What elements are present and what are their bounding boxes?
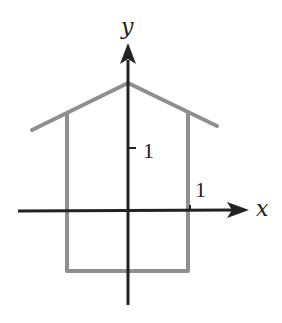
x-axis (18, 202, 249, 218)
house-diagram: y x 1 1 (0, 0, 282, 323)
y-tick-label: 1 (143, 138, 154, 163)
house-shape (32, 83, 217, 271)
x-axis-label: x (256, 196, 269, 221)
y-axis (120, 43, 136, 305)
x-tick-label: 1 (195, 177, 206, 202)
y-axis-label: y (120, 14, 134, 39)
